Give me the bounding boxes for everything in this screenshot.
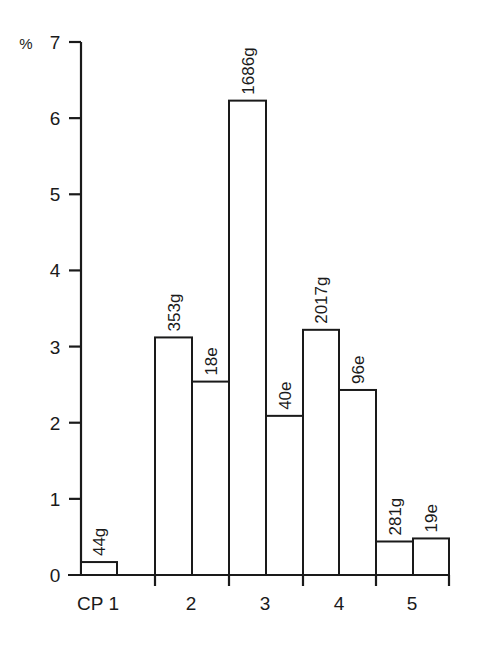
x-axis [68,575,450,586]
bar-value-label: 96e [349,356,368,384]
bar-value-label: 44g [90,528,109,556]
x-category-label: CP 1 [77,593,119,614]
bar-value-label: 2017g [312,277,331,324]
y-tick-label: 1 [50,489,61,510]
y-tick-label: 0 [50,565,61,586]
bar-44g [81,562,117,575]
bar-2017g [303,330,339,575]
y-unit-label: % [19,35,32,52]
bar-281g [376,541,413,575]
bar-1686g [229,101,266,575]
bar-19e [413,538,449,575]
y-tick-label: 4 [50,260,61,281]
y-axis: 01234567% [19,32,81,586]
bar-value-label: 353g [165,294,184,332]
bar-value-label: 1686g [239,47,258,94]
bar-96e [339,390,376,575]
category-labels: CP 12345 [77,593,417,614]
y-tick-label: 2 [50,413,61,434]
bar-value-label: 19e [422,504,441,532]
bar-18e [192,382,229,575]
x-category-label: 2 [186,593,197,614]
y-tick-label: 5 [50,184,61,205]
bar-40e [266,416,303,575]
x-category-label: 3 [260,593,271,614]
x-category-label: 4 [334,593,345,614]
bar-chart: 01234567% 44g353g18e1686g40e2017g96e281g… [0,0,490,648]
bar-value-label: 40e [276,381,295,409]
y-tick-label: 3 [50,337,61,358]
bar-value-label: 281g [386,498,405,536]
bar-353g [155,337,192,575]
y-tick-label: 6 [50,108,61,129]
x-category-label: 5 [407,593,418,614]
y-tick-label: 7 [50,32,61,53]
bar-value-label: 18e [202,347,221,375]
